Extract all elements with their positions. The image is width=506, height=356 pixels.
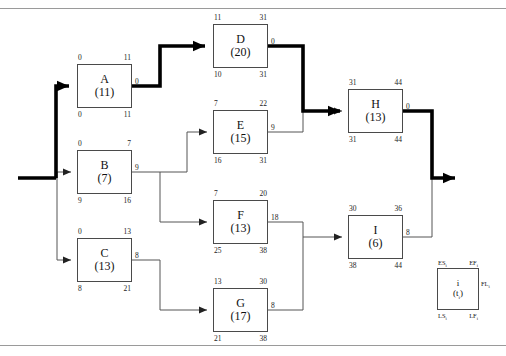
edge-C-to-G [132,260,207,310]
late-finish-value: 11 [124,110,131,119]
float-value: 9 [135,163,139,172]
edge-start-to-B [57,172,71,178]
activity-node-a[interactable]: A(11) [77,64,132,108]
activity-duration: (13) [366,111,386,124]
early-finish-value: 44 [395,78,403,87]
edge-E-to-H [268,111,342,132]
float-value: 18 [271,213,279,222]
activity-node-h[interactable]: H(13) [348,89,403,133]
activity-duration: (15) [231,132,251,145]
late-finish-value: 21 [124,284,132,293]
late-start-value: 9 [78,196,82,205]
legend-lf-label: LFi [469,312,478,321]
edge-H-to-end [403,111,455,178]
late-finish-value: 16 [124,196,132,205]
activity-duration: (13) [95,260,115,273]
activity-duration: (20) [231,46,251,59]
early-start-value: 11 [214,13,221,22]
edge-start-to-A [56,86,69,178]
activity-label: I [374,224,378,237]
early-start-value: 7 [214,99,218,108]
activity-duration: (6) [369,237,383,250]
legend-duration-symbol: (ti) [453,288,463,301]
early-finish-value: 7 [127,139,131,148]
activity-node-f[interactable]: F(13) [213,200,268,244]
late-start-value: 8 [78,284,82,293]
legend-ef-label: EFi [469,259,478,268]
early-finish-value: 11 [124,53,131,62]
legend-fl-label: FLi [481,280,490,289]
activity-node-d[interactable]: D(20) [213,24,268,68]
early-start-value: 0 [78,139,82,148]
late-finish-value: 31 [260,70,268,79]
activity-label: H [371,98,380,111]
edge-G-to-I [268,237,303,310]
legend-activity-symbol: i [457,278,460,288]
edge-D-to-H [268,46,340,111]
late-finish-value: 44 [395,261,403,270]
activity-node-e[interactable]: E(15) [213,110,268,154]
activity-duration: (17) [231,310,251,323]
activity-node-c[interactable]: C(13) [77,238,132,282]
diagram-canvas: A(11)0110110B(7)079169C(13)0138218D(20)1… [0,0,506,356]
early-finish-value: 22 [260,99,268,108]
activity-label: F [237,209,244,222]
late-start-value: 25 [214,246,222,255]
activity-node-b[interactable]: B(7) [77,150,132,194]
activity-label: C [100,247,108,260]
edge-A-to-D [132,46,205,86]
late-start-value: 21 [214,334,222,343]
early-start-value: 0 [78,227,82,236]
activity-duration: (7) [98,172,112,185]
float-value: 0 [135,77,139,86]
edge-B-to-F [160,172,207,222]
early-start-value: 0 [78,53,82,62]
early-finish-value: 31 [260,13,268,22]
activity-label: D [236,33,245,46]
early-finish-value: 30 [260,277,268,286]
late-finish-value: 38 [260,246,268,255]
activity-label: E [237,119,244,132]
float-value: 8 [406,228,410,237]
legend-ls-label: LSi [438,312,447,321]
legend-es-label: ESi [438,259,447,268]
activity-duration: (11) [95,86,115,99]
early-start-value: 13 [214,277,222,286]
late-start-value: 31 [349,135,357,144]
activity-node-g[interactable]: G(17) [213,288,268,332]
early-finish-value: 20 [260,189,268,198]
activity-duration: (13) [231,222,251,235]
float-value: 0 [406,102,410,111]
late-start-value: 16 [214,156,222,165]
edge-F-to-I [268,222,342,237]
late-start-value: 38 [349,261,357,270]
activity-label: A [100,73,109,86]
early-finish-value: 13 [124,227,132,236]
edge-start-to-C [57,178,71,260]
float-value: 8 [135,251,139,260]
float-value: 9 [271,123,275,132]
late-finish-value: 31 [260,156,268,165]
early-finish-value: 36 [395,204,403,213]
activity-label: G [236,297,245,310]
float-value: 8 [271,301,275,310]
late-finish-value: 44 [395,135,403,144]
late-start-value: 0 [78,110,82,119]
early-start-value: 31 [349,78,357,87]
activity-node-i[interactable]: I(6) [348,215,403,259]
edge-B-to-E [132,132,207,172]
legend-node-box: i(ti) [437,268,479,310]
early-start-value: 30 [349,204,357,213]
late-start-value: 10 [214,70,222,79]
activity-label: B [100,159,108,172]
float-value: 0 [271,37,275,46]
early-start-value: 7 [214,189,218,198]
late-finish-value: 38 [260,334,268,343]
